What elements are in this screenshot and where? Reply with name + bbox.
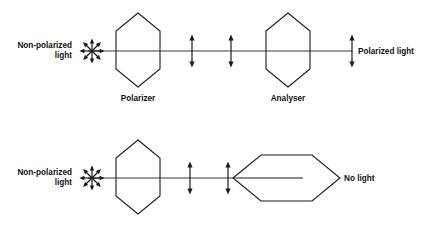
polarizer-top (116, 13, 160, 87)
analyser-label-top: Analyser (271, 94, 306, 103)
polarization-diagram: Non-polarized light Polarizer Analyser P… (0, 0, 423, 232)
polarizer-label-top: Polarizer (121, 94, 156, 103)
output-label-top: Polarized light (358, 47, 414, 56)
analyser-top (266, 13, 310, 87)
crossed-row-group: Non-polarized light No light (17, 140, 374, 214)
diagram-canvas: Non-polarized light Polarizer Analyser P… (0, 0, 423, 232)
parallel-row-group: Non-polarized light Polarizer Analyser P… (17, 13, 414, 103)
input-label-top-line1: Non-polarized (17, 41, 72, 50)
input-label-top-line2: light (55, 51, 73, 60)
starburst-unpolarized-icon-top (79, 38, 104, 63)
output-label-bottom: No light (344, 174, 375, 183)
input-label-bottom-line1: Non-polarized (17, 168, 72, 177)
polarizer-bottom (116, 140, 160, 214)
starburst-unpolarized-icon-bottom (79, 165, 104, 190)
input-label-bottom-line2: light (55, 178, 73, 187)
